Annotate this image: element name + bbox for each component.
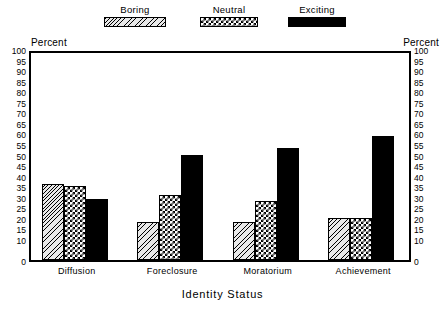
legend-swatch-exciting-icon — [288, 17, 346, 27]
y-tick-label-right-55: 55 — [414, 142, 440, 151]
y-tick-label-left-100: 100 — [2, 47, 26, 56]
y-tick-label-right-45: 45 — [414, 163, 440, 172]
y-tick-label-right-15: 15 — [414, 226, 440, 235]
chart-legend: Boring Neutral Exciting — [0, 4, 445, 34]
legend-label-boring: Boring — [104, 4, 166, 15]
y-tick-label-left-20: 20 — [2, 216, 26, 225]
y-tick-label-left-55: 55 — [2, 142, 26, 151]
legend-label-exciting: Exciting — [288, 4, 346, 15]
y-tick-label-left-10: 10 — [2, 237, 26, 246]
y-tick-label-left-30: 30 — [2, 195, 26, 204]
legend-swatch-boring-icon — [104, 17, 166, 27]
bar-moratorium-neutral — [255, 201, 277, 260]
y-tick-label-left-15: 15 — [2, 226, 26, 235]
y-tick-label-right-10: 10 — [414, 237, 440, 246]
y-tick-label-right-40: 40 — [414, 174, 440, 183]
y-axis-ticks-left: 1009590858075706560555045403530252015100 — [2, 51, 26, 262]
y-tick-label-right-70: 70 — [414, 110, 440, 119]
x-category-label-achievement: Achievement — [316, 266, 412, 276]
y-tick-label-left-95: 95 — [2, 58, 26, 67]
bar-diffusion-neutral — [64, 186, 86, 260]
bar-foreclosure-boring — [137, 222, 159, 260]
bar-foreclosure-exciting — [181, 155, 203, 261]
plot-frame — [29, 51, 411, 262]
y-tick-label-left-70: 70 — [2, 110, 26, 119]
y-tick-label-left-45: 45 — [2, 163, 26, 172]
x-category-label-diffusion: Diffusion — [29, 266, 125, 276]
y-tick-label-right-25: 25 — [414, 205, 440, 214]
y-tick-label-right-0: 0 — [414, 258, 440, 267]
y-tick-label-right-90: 90 — [414, 68, 440, 77]
plot-area — [31, 53, 409, 260]
y-tick-label-left-65: 65 — [2, 121, 26, 130]
bar-diffusion-exciting — [86, 199, 108, 260]
y-tick-label-right-75: 75 — [414, 100, 440, 109]
y-axis-title-left: Percent — [31, 37, 67, 48]
y-tick-label-right-85: 85 — [414, 79, 440, 88]
y-tick-label-left-80: 80 — [2, 89, 26, 98]
bar-moratorium-exciting — [277, 148, 299, 260]
legend-label-neutral: Neutral — [200, 4, 258, 15]
x-axis-category-labels: DiffusionForeclosureMoratoriumAchievemen… — [29, 266, 411, 280]
legend-item-exciting: Exciting — [288, 4, 346, 27]
y-tick-label-left-50: 50 — [2, 153, 26, 162]
y-tick-label-right-80: 80 — [414, 89, 440, 98]
bar-achievement-exciting — [372, 136, 394, 260]
y-tick-label-right-30: 30 — [414, 195, 440, 204]
y-tick-label-left-25: 25 — [2, 205, 26, 214]
y-tick-label-left-35: 35 — [2, 184, 26, 193]
y-tick-label-left-60: 60 — [2, 131, 26, 140]
legend-item-boring: Boring — [104, 4, 166, 27]
x-category-label-foreclosure: Foreclosure — [125, 266, 221, 276]
legend-item-neutral: Neutral — [200, 4, 258, 27]
y-tick-label-left-75: 75 — [2, 100, 26, 109]
x-axis-title: Identity Status — [0, 288, 445, 300]
y-tick-label-left-0: 0 — [2, 258, 26, 267]
x-category-label-moratorium: Moratorium — [220, 266, 316, 276]
bar-moratorium-boring — [233, 222, 255, 260]
bar-achievement-boring — [328, 218, 350, 260]
y-tick-label-right-95: 95 — [414, 58, 440, 67]
y-tick-label-right-100: 100 — [414, 47, 440, 56]
bar-foreclosure-neutral — [159, 195, 181, 260]
y-tick-label-right-35: 35 — [414, 184, 440, 193]
bar-diffusion-boring — [42, 184, 64, 260]
y-tick-label-right-50: 50 — [414, 153, 440, 162]
y-tick-label-right-60: 60 — [414, 131, 440, 140]
y-tick-label-left-90: 90 — [2, 68, 26, 77]
y-tick-label-right-20: 20 — [414, 216, 440, 225]
y-tick-label-right-65: 65 — [414, 121, 440, 130]
y-axis-ticks-right: 1009590858075706560555045403530252015100 — [414, 51, 440, 262]
y-tick-label-left-40: 40 — [2, 174, 26, 183]
bar-achievement-neutral — [350, 218, 372, 260]
y-tick-label-left-85: 85 — [2, 79, 26, 88]
legend-swatch-neutral-icon — [200, 17, 258, 27]
